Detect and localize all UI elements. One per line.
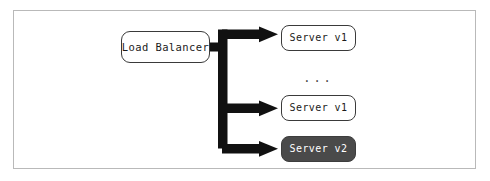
ellipsis-more-servers: ... (296, 70, 341, 86)
node-server-1[interactable]: Server v1 (281, 25, 356, 51)
diagram-canvas: Load Balancer Server v1 ... Server v1 Se… (0, 0, 490, 181)
node-server-2-label: Server v1 (290, 103, 348, 113)
node-server-1-label: Server v1 (290, 33, 348, 43)
node-load-balancer-label: Load Balancer (122, 42, 209, 53)
node-load-balancer[interactable]: Load Balancer (121, 31, 210, 63)
diagram-frame (13, 10, 476, 169)
node-server-3-label: Server v2 (290, 144, 348, 154)
node-server-2[interactable]: Server v1 (281, 95, 356, 121)
ellipsis-label: ... (303, 71, 334, 85)
node-server-3[interactable]: Server v2 (281, 136, 356, 162)
